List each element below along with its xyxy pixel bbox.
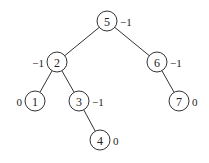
balance-factor-label: −1 <box>120 16 132 28</box>
balance-factor-label: −1 <box>92 96 104 108</box>
edge-5-2 <box>65 27 100 55</box>
edge-3-4 <box>84 110 96 131</box>
node-key: 3 <box>76 95 82 109</box>
tree-node-3: 3−1 <box>69 91 104 111</box>
tree-node-4: 40 <box>90 130 119 150</box>
tree-node-1: 10 <box>17 91 46 111</box>
balance-factor-label: 0 <box>113 135 119 147</box>
edge-5-6 <box>115 27 150 55</box>
edge-2-3 <box>62 71 74 93</box>
balance-factor-label: −1 <box>170 57 182 69</box>
node-key: 5 <box>104 15 110 29</box>
node-key: 1 <box>32 95 38 109</box>
node-key: 4 <box>97 134 103 148</box>
node-key: 2 <box>54 56 60 70</box>
edges-layer <box>40 27 174 131</box>
tree-node-7: 70 <box>169 91 198 111</box>
balance-factor-label: 0 <box>17 96 23 108</box>
tree-diagram: 5−12−16−1103−17040 <box>0 0 209 163</box>
balance-factor-label: −1 <box>32 57 44 69</box>
edge-6-7 <box>162 71 174 93</box>
tree-node-5: 5−1 <box>97 11 132 31</box>
balance-factor-label: 0 <box>192 96 198 108</box>
nodes-layer: 5−12−16−1103−17040 <box>17 11 199 150</box>
node-key: 6 <box>154 56 160 70</box>
edge-2-1 <box>40 71 52 93</box>
node-key: 7 <box>176 95 182 109</box>
tree-node-2: 2−1 <box>32 52 67 72</box>
tree-node-6: 6−1 <box>147 52 182 72</box>
